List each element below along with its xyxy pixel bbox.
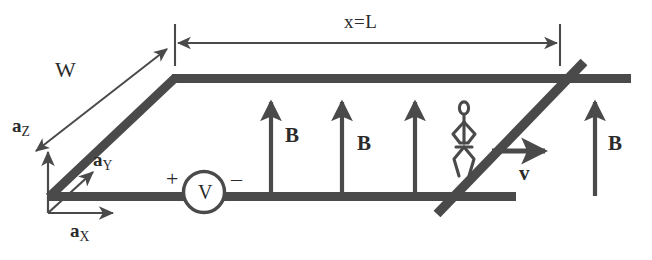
stick-figure-legs [454, 147, 474, 176]
left-diagonal-rail [49, 78, 175, 197]
axis-z-label: aZ [12, 116, 30, 139]
axis-z-symbol: a [12, 115, 22, 136]
axis-x-label: aX [70, 221, 89, 244]
b-field-label-1: B [285, 125, 299, 146]
width-dimension-label: W [55, 59, 76, 81]
sliding-bar[interactable] [437, 62, 584, 214]
length-dimension-label: x=L [344, 12, 377, 31]
stick-figure-rider [453, 102, 475, 176]
voltage-source-label: V [198, 182, 212, 202]
axis-x-symbol: a [70, 220, 80, 241]
axis-z-subscript: Z [22, 124, 30, 139]
b-field-label-2: B [357, 133, 371, 154]
b-field-label-3: B [608, 133, 622, 154]
axis-y-symbol: a [93, 149, 103, 170]
axis-y-label: aY [93, 150, 112, 173]
rail-circuit-diagram: x=L W aZ aY aX V + – B B B v [0, 0, 652, 260]
voltage-plus-terminal: + [166, 168, 178, 190]
voltage-minus-terminal: – [231, 168, 242, 190]
axis-y-subscript: Y [103, 158, 113, 173]
velocity-label: v [519, 163, 530, 184]
stick-figure-head [459, 102, 468, 114]
diagram-canvas [0, 0, 652, 260]
axis-x-subscript: X [80, 229, 90, 244]
magnetic-field-arrows [271, 102, 595, 196]
